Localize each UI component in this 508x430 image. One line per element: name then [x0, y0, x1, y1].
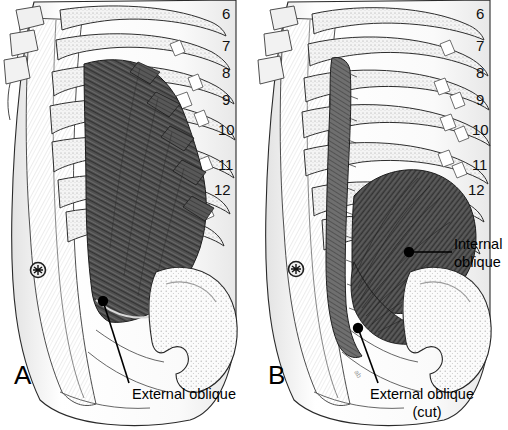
callout-external-oblique-cut-line1: External oblique	[370, 386, 474, 403]
panel-b-illustration: ab	[254, 0, 508, 430]
rib-number-12: 12	[468, 182, 484, 197]
rib-number-9: 9	[476, 92, 484, 107]
anatomy-figure: A 6 7 8 9 10 11 12 External oblique	[0, 0, 508, 430]
rib-number-6: 6	[222, 6, 230, 21]
umbilicus	[289, 262, 304, 277]
panel-a-illustration	[0, 0, 254, 430]
rib-number-12: 12	[214, 182, 230, 197]
rib-number-7: 7	[222, 38, 230, 53]
rib-number-10: 10	[218, 122, 234, 137]
callout-external-oblique: External oblique	[132, 386, 236, 403]
rib-number-10: 10	[472, 122, 488, 137]
callout-internal-oblique-line1: Internal	[454, 236, 502, 253]
rib-number-11: 11	[472, 157, 487, 172]
rib-number-8: 8	[476, 65, 484, 80]
panel-letter-b: B	[268, 362, 285, 388]
panel-a: A 6 7 8 9 10 11 12 External oblique	[0, 0, 254, 430]
umbilicus	[31, 263, 46, 278]
callout-internal-oblique-line2: oblique	[454, 254, 501, 271]
panel-letter-a: A	[14, 362, 31, 388]
panel-b: ab B 6 7 8 9 10 11 12 Internal oblique E…	[254, 0, 508, 430]
rib-number-11: 11	[218, 157, 233, 172]
rib-number-8: 8	[222, 65, 230, 80]
rib-number-7: 7	[476, 38, 484, 53]
rib-number-9: 9	[222, 92, 230, 107]
rib-number-6: 6	[476, 6, 484, 21]
callout-external-oblique-cut-line2: (cut)	[370, 404, 484, 421]
